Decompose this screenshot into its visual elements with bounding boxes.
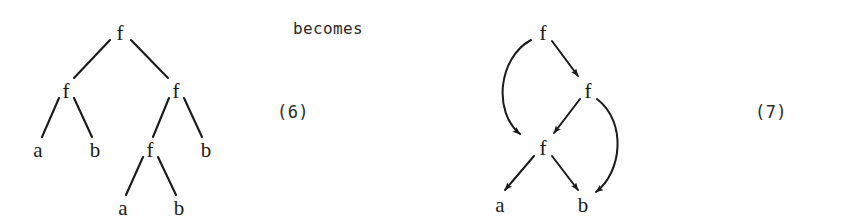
dag-edge-mid-f-to-bottom-f bbox=[554, 99, 580, 133]
equation-tag-6: (6) bbox=[277, 102, 309, 122]
tree-edge-f3-b bbox=[158, 157, 176, 195]
term-tree-group: f f f a b f b a b bbox=[33, 21, 211, 220]
dag-node-top-f: f bbox=[540, 21, 547, 45]
tree-node-root: f bbox=[117, 21, 124, 45]
tree-node-b-2: b bbox=[201, 138, 212, 162]
tree-node-b-1: b bbox=[90, 138, 101, 162]
figure-container: f f f a b f b a b becomes (6) bbox=[0, 0, 842, 220]
tree-node-right-f: f bbox=[173, 79, 180, 103]
tree-node-b-3: b bbox=[174, 196, 185, 220]
figure-svg: f f f a b f b a b becomes (6) bbox=[0, 0, 842, 220]
dag-edge-top-f-to-bottom-f bbox=[503, 40, 531, 134]
dag-edge-mid-f-to-b bbox=[596, 99, 618, 192]
tree-edge-f3-a bbox=[126, 157, 143, 195]
tree-node-a-1: a bbox=[33, 138, 43, 162]
tree-node-inner-f: f bbox=[147, 138, 154, 162]
tree-edge-root-right bbox=[131, 40, 168, 78]
tree-edge-f2-b bbox=[184, 98, 202, 137]
dag-edge-top-f-to-mid-f bbox=[552, 41, 578, 76]
tree-edges bbox=[42, 40, 202, 195]
tree-nodes: f f f a b f b a b bbox=[33, 21, 211, 220]
dag-node-b: b bbox=[578, 193, 589, 217]
dag-node-a: a bbox=[495, 193, 505, 217]
equation-tag-7: (7) bbox=[755, 102, 787, 122]
becomes-caption: becomes bbox=[293, 19, 363, 38]
dag-edges bbox=[503, 40, 618, 192]
dag-edge-bottom-f-to-b bbox=[552, 156, 578, 190]
tree-node-left-f: f bbox=[63, 79, 70, 103]
tree-edge-f1-a bbox=[42, 98, 59, 137]
dag-edge-bottom-f-to-a bbox=[505, 156, 534, 190]
tree-edge-f1-b bbox=[74, 98, 92, 137]
tree-node-a-2: a bbox=[118, 196, 128, 220]
tree-edge-f2-f bbox=[153, 98, 169, 137]
tree-edge-root-left bbox=[74, 40, 110, 78]
dag-node-mid-f: f bbox=[585, 79, 592, 103]
dag-node-bottom-f: f bbox=[540, 136, 547, 160]
term-dag-group: f f f a b bbox=[495, 21, 617, 217]
